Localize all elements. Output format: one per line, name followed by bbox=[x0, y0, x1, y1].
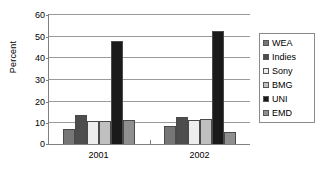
bar-emd-2001 bbox=[123, 120, 135, 144]
plot-area: 0102030405060 bbox=[48, 14, 250, 145]
y-axis-tick-mark bbox=[46, 144, 49, 145]
legend-label: Sony bbox=[272, 67, 293, 76]
bar-sony-2002 bbox=[188, 120, 200, 144]
bar-wea-2002 bbox=[164, 126, 176, 144]
bar-wea-2001 bbox=[63, 129, 75, 144]
x-axis-tick-label: 2001 bbox=[48, 150, 149, 160]
legend: WEAIndiesSonyBMGUNIEMD bbox=[259, 33, 315, 123]
legend-label: EMD bbox=[272, 109, 292, 118]
bar-emd-2002 bbox=[224, 132, 236, 144]
y-axis-tick-label: 40 bbox=[35, 53, 45, 63]
bar-bmg-2001 bbox=[99, 121, 111, 144]
y-axis-tick-label: 0 bbox=[40, 139, 45, 149]
y-axis-tick-label: 20 bbox=[35, 97, 45, 107]
x-axis-tick-label: 2002 bbox=[149, 150, 250, 160]
bar-sony-2001 bbox=[87, 121, 99, 144]
legend-label: UNI bbox=[272, 95, 288, 104]
legend-item-bmg: BMG bbox=[263, 78, 312, 92]
legend-swatch-icon bbox=[263, 110, 269, 116]
bar-groups bbox=[49, 14, 250, 144]
legend-swatch-icon bbox=[263, 68, 269, 74]
bar-group bbox=[150, 14, 251, 144]
legend-swatch-icon bbox=[263, 82, 269, 88]
bar-indies-2002 bbox=[176, 117, 188, 144]
bar-indies-2001 bbox=[75, 115, 87, 144]
legend-label: BMG bbox=[272, 81, 293, 90]
y-axis-tick-label: 60 bbox=[35, 10, 45, 20]
legend-item-indies: Indies bbox=[263, 50, 312, 64]
bar-uni-2001 bbox=[111, 41, 123, 144]
legend-label: WEA bbox=[272, 39, 293, 48]
legend-swatch-icon bbox=[263, 54, 269, 60]
y-axis-tick-label: 50 bbox=[35, 32, 45, 42]
legend-label: Indies bbox=[272, 53, 296, 62]
legend-item-sony: Sony bbox=[263, 64, 312, 78]
legend-item-emd: EMD bbox=[263, 106, 312, 120]
bar-chart: Percent 0102030405060 20012002 WEAIndies… bbox=[0, 0, 322, 180]
bar-group bbox=[49, 14, 150, 144]
y-axis-tick-label: 10 bbox=[35, 118, 45, 128]
bar-bmg-2002 bbox=[200, 119, 212, 144]
legend-swatch-icon bbox=[263, 40, 269, 46]
x-axis-labels: 20012002 bbox=[48, 150, 250, 160]
y-axis-tick-label: 30 bbox=[35, 75, 45, 85]
legend-item-uni: UNI bbox=[263, 92, 312, 106]
legend-item-wea: WEA bbox=[263, 36, 312, 50]
y-axis-title: Percent bbox=[8, 22, 18, 92]
legend-swatch-icon bbox=[263, 96, 269, 102]
bar-uni-2002 bbox=[212, 31, 224, 144]
